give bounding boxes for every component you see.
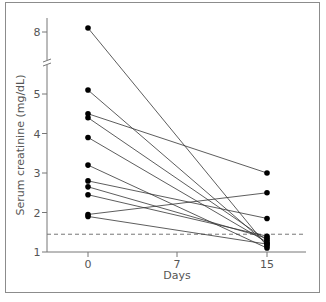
series-points (85, 25, 270, 251)
data-point (85, 115, 91, 121)
series-lines (88, 28, 267, 248)
data-point (85, 192, 91, 198)
data-point (264, 170, 270, 176)
y-tick-label: 1 (34, 246, 41, 259)
data-point (264, 233, 270, 239)
data-point (264, 241, 270, 247)
data-point (85, 25, 91, 31)
data-point (85, 178, 91, 184)
y-tick-label: 5 (34, 88, 41, 101)
series-line-patient-3 (88, 114, 267, 173)
data-point (264, 190, 270, 196)
data-point (85, 184, 91, 190)
x-tick-label: 0 (85, 258, 92, 271)
data-point (85, 135, 91, 141)
series-line-patient-5 (88, 137, 267, 242)
chart: 123458 0715 Days Serum creatinine (mg/dL… (0, 0, 326, 302)
data-point (85, 162, 91, 168)
series-line-patient-1 (88, 28, 267, 246)
data-point (85, 87, 91, 93)
x-tick-label: 15 (260, 258, 274, 271)
y-axis-label: Serum creatinine (mg/dL) (14, 74, 27, 215)
y-tick-label: 2 (34, 207, 41, 220)
y-tick-label: 4 (34, 128, 41, 141)
data-point (264, 216, 270, 222)
y-tick-label: 8 (34, 26, 41, 39)
axis-break-icon (43, 59, 51, 66)
x-axis-label: Days (163, 269, 191, 282)
series-line-patient-4 (88, 118, 267, 240)
data-point (85, 214, 91, 220)
series-line-patient-10 (88, 193, 267, 215)
y-tick-label: 3 (34, 167, 41, 180)
series-line-patient-6 (88, 165, 267, 248)
